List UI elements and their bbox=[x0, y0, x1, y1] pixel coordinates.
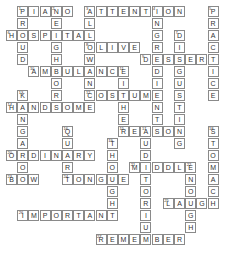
grid-cell[interactable]: O bbox=[185, 186, 196, 197]
grid-cell[interactable]: E bbox=[208, 90, 219, 101]
grid-cell[interactable]: H bbox=[208, 198, 219, 209]
grid-cell[interactable]: N bbox=[96, 66, 107, 77]
grid-cell[interactable]: T bbox=[140, 6, 151, 17]
grid-cell[interactable]: T bbox=[62, 30, 73, 41]
grid-cell[interactable]: N bbox=[185, 174, 196, 185]
grid-cell[interactable]: N bbox=[17, 114, 28, 125]
grid-cell[interactable]: A bbox=[40, 6, 51, 17]
grid-cell[interactable]: I bbox=[40, 150, 51, 161]
grid-cell[interactable]: T bbox=[140, 174, 151, 185]
grid-cell[interactable]: O bbox=[208, 150, 219, 161]
grid-cell[interactable]: U bbox=[62, 138, 73, 149]
grid-cell[interactable]: T bbox=[208, 54, 219, 65]
grid-cell[interactable]: M bbox=[28, 210, 39, 221]
grid-cell[interactable]: P5 bbox=[208, 6, 219, 17]
grid-cell[interactable]: O bbox=[17, 30, 28, 41]
grid-cell[interactable]: R bbox=[73, 150, 84, 161]
grid-cell[interactable]: A17 bbox=[140, 126, 151, 137]
grid-cell[interactable]: N bbox=[84, 174, 95, 185]
grid-cell[interactable]: I bbox=[140, 162, 151, 173]
grid-cell[interactable]: T bbox=[174, 102, 185, 113]
grid-cell[interactable]: L bbox=[84, 18, 95, 29]
grid-cell[interactable]: Y bbox=[84, 150, 95, 161]
grid-cell[interactable]: H14 bbox=[6, 102, 17, 113]
grid-cell[interactable]: R bbox=[196, 54, 207, 65]
grid-cell[interactable]: N bbox=[51, 150, 62, 161]
grid-cell[interactable]: C12 bbox=[84, 90, 95, 101]
grid-cell[interactable]: A bbox=[208, 174, 219, 185]
grid-cell[interactable]: C bbox=[208, 42, 219, 53]
grid-cell[interactable]: O bbox=[163, 126, 174, 137]
grid-cell[interactable]: U bbox=[129, 90, 140, 101]
grid-cell[interactable]: T bbox=[96, 6, 107, 17]
grid-cell[interactable]: B bbox=[152, 234, 163, 245]
grid-cell[interactable]: N bbox=[174, 6, 185, 17]
grid-cell[interactable]: N bbox=[152, 102, 163, 113]
grid-cell[interactable]: N bbox=[174, 126, 185, 137]
grid-cell[interactable]: L25 bbox=[163, 198, 174, 209]
grid-cell[interactable]: O bbox=[140, 186, 151, 197]
grid-cell[interactable]: H bbox=[107, 150, 118, 161]
grid-cell[interactable]: R bbox=[140, 198, 151, 209]
grid-cell[interactable]: T bbox=[107, 6, 118, 17]
grid-cell[interactable]: E bbox=[84, 102, 95, 113]
grid-cell[interactable]: N bbox=[152, 18, 163, 29]
grid-cell[interactable]: R bbox=[62, 162, 73, 173]
grid-cell[interactable]: U bbox=[107, 174, 118, 185]
grid-cell[interactable]: G bbox=[51, 42, 62, 53]
grid-cell[interactable]: I26 bbox=[17, 210, 28, 221]
grid-cell[interactable]: D7 bbox=[174, 30, 185, 41]
grid-cell[interactable]: I bbox=[107, 42, 118, 53]
grid-cell[interactable]: E22 bbox=[185, 162, 196, 173]
grid-cell[interactable]: D bbox=[40, 102, 51, 113]
grid-cell[interactable]: N bbox=[96, 210, 107, 221]
grid-cell[interactable]: T19 bbox=[107, 138, 118, 149]
grid-cell[interactable]: W bbox=[28, 174, 39, 185]
grid-cell[interactable]: O bbox=[51, 78, 62, 89]
grid-cell[interactable]: O bbox=[62, 6, 73, 17]
grid-cell[interactable]: S bbox=[51, 102, 62, 113]
grid-cell[interactable]: G bbox=[185, 210, 196, 221]
grid-cell[interactable]: N bbox=[129, 6, 140, 17]
grid-cell[interactable]: G bbox=[174, 138, 185, 149]
grid-cell[interactable]: M bbox=[140, 90, 151, 101]
grid-cell[interactable]: O bbox=[96, 90, 107, 101]
grid-cell[interactable]: E bbox=[152, 90, 163, 101]
grid-cell[interactable]: G bbox=[152, 30, 163, 41]
grid-cell[interactable]: P bbox=[40, 210, 51, 221]
grid-cell[interactable]: R bbox=[174, 234, 185, 245]
grid-cell[interactable]: W bbox=[84, 54, 95, 65]
grid-cell[interactable]: H bbox=[185, 222, 196, 233]
grid-cell[interactable]: D9 bbox=[140, 54, 151, 65]
grid-cell[interactable]: C bbox=[208, 78, 219, 89]
grid-cell[interactable]: O bbox=[17, 174, 28, 185]
grid-cell[interactable]: G bbox=[17, 126, 28, 137]
grid-cell[interactable]: R15 bbox=[118, 126, 129, 137]
grid-cell[interactable]: L bbox=[84, 30, 95, 41]
grid-cell[interactable]: R bbox=[51, 90, 62, 101]
grid-cell[interactable]: R bbox=[17, 150, 28, 161]
grid-cell[interactable]: D bbox=[163, 162, 174, 173]
grid-cell[interactable]: Q16 bbox=[62, 126, 73, 137]
grid-cell[interactable]: N bbox=[84, 78, 95, 89]
grid-cell[interactable]: O bbox=[163, 6, 174, 17]
grid-cell[interactable]: O20 bbox=[6, 150, 17, 161]
grid-cell[interactable]: H bbox=[51, 54, 62, 65]
grid-cell[interactable]: A bbox=[17, 138, 28, 149]
grid-cell[interactable]: C bbox=[208, 186, 219, 197]
grid-cell[interactable]: A bbox=[62, 150, 73, 161]
grid-cell[interactable]: M bbox=[208, 162, 219, 173]
grid-cell[interactable]: A bbox=[73, 30, 84, 41]
grid-cell[interactable]: E bbox=[118, 114, 129, 125]
grid-cell[interactable]: T bbox=[107, 210, 118, 221]
grid-cell[interactable]: E bbox=[118, 6, 129, 17]
grid-cell[interactable]: O bbox=[73, 174, 84, 185]
grid-cell[interactable]: A bbox=[84, 66, 95, 77]
grid-cell[interactable]: A bbox=[208, 30, 219, 41]
grid-cell[interactable]: C bbox=[107, 66, 118, 77]
grid-cell[interactable]: I bbox=[174, 42, 185, 53]
grid-cell[interactable]: E bbox=[163, 234, 174, 245]
grid-cell[interactable]: E bbox=[51, 18, 62, 29]
grid-cell[interactable]: A bbox=[174, 198, 185, 209]
grid-cell[interactable]: T24 bbox=[62, 174, 73, 185]
